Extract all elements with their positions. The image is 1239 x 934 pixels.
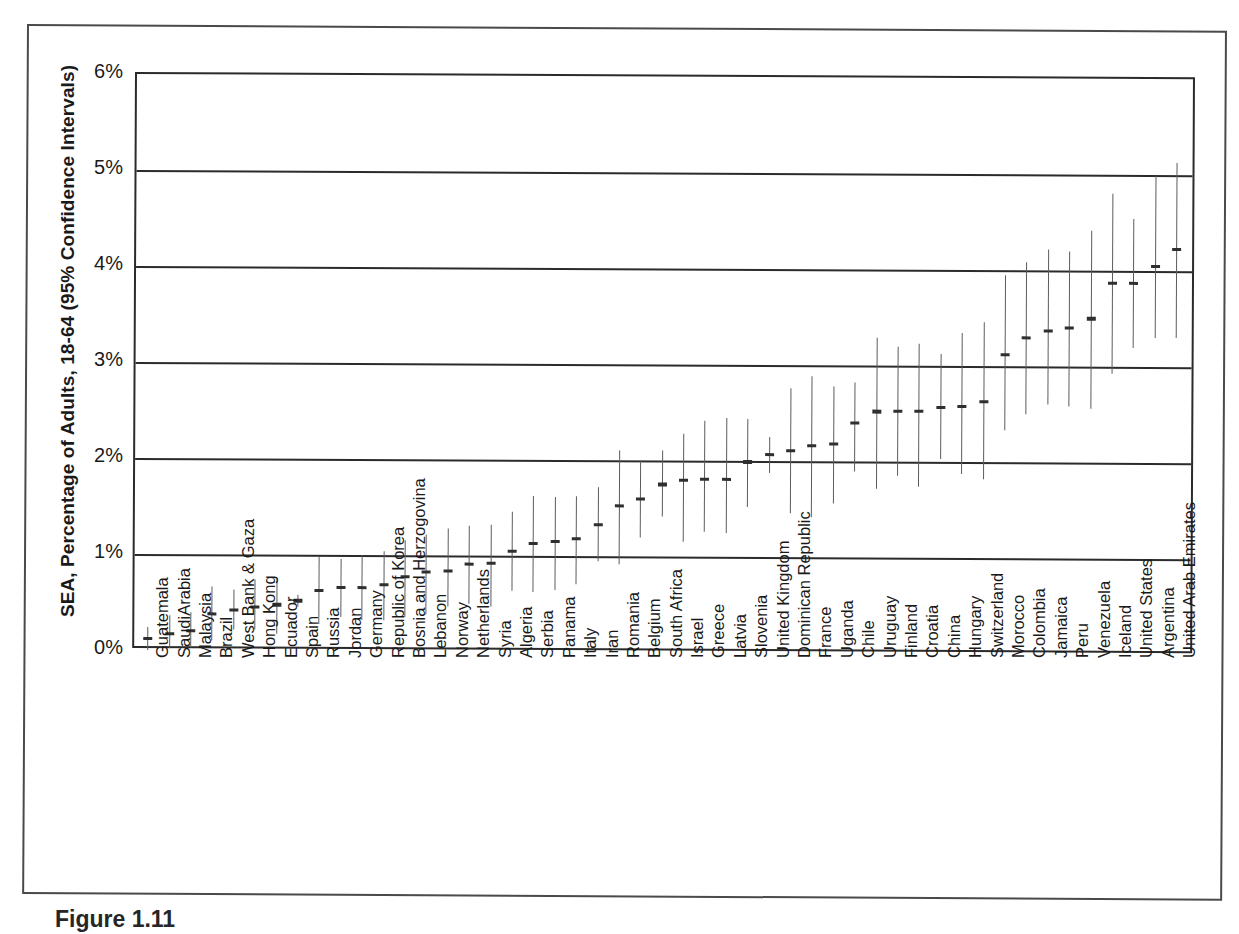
y-tick-6%: 6% [63,61,123,81]
data-point-marker [808,444,817,447]
x-tick-label: Iceland [1117,605,1134,658]
x-tick-label: Switzerland [989,573,1006,658]
error-bar [1047,249,1049,405]
data-point-marker [700,477,709,480]
data-point-marker [508,549,517,552]
data-point-marker [679,478,688,481]
y-tick-0%: 0% [63,637,123,657]
data-point-marker [529,542,538,545]
data-point-marker [486,562,495,565]
data-point-marker [1086,317,1095,320]
error-bar [918,344,920,487]
x-tick-label: Slovenia [753,595,770,658]
x-tick-label: Russia [325,608,342,658]
x-tick-label: South Africa [668,569,685,658]
data-point-marker [850,422,859,425]
data-point-marker [1172,248,1181,251]
y-tick-2%: 2% [63,445,123,465]
error-bar [683,434,685,542]
data-point-marker [1065,327,1074,330]
data-point-marker [786,449,795,452]
data-point-marker [893,409,902,412]
data-point-marker [743,460,752,463]
x-tick-label: Serbia [539,610,556,658]
x-tick-label: Spain [304,616,321,658]
data-point-marker [979,400,988,403]
x-tick-label: Colombia [1031,588,1048,658]
data-point-marker [722,477,731,480]
x-tick-label: Israel [689,618,706,658]
x-tick-label: Syria [497,620,514,658]
x-tick-label: Guatemala [154,577,171,658]
x-tick-label: France [817,607,834,658]
x-tick-label: Peru [1074,623,1091,658]
error-bar [726,418,728,533]
x-tick-label: Morocco [1010,595,1027,658]
y-tick-4%: 4% [63,253,123,273]
x-tick-label: Belgium [646,598,663,658]
x-tick-label: Uganda [839,600,856,658]
data-point-marker [1001,353,1010,356]
x-tick-label: Germany [368,590,385,658]
x-tick-label: Panama [561,597,578,658]
x-tick-label: China [946,615,963,658]
x-tick-label: Venezuela [1096,581,1113,658]
plot-area [132,72,1195,653]
data-point-marker [379,583,388,586]
x-tick-label: SaudiArabia [176,568,193,658]
data-point-marker [1108,282,1117,285]
x-tick-label: Bosnia and Herzogovina [411,478,428,658]
x-axis-tick-labels: GuatemalaSaudiArabiaMalaysiaBrazilWest B… [135,652,1195,902]
error-bar [704,420,706,531]
data-point-marker [465,563,474,566]
y-tick-3%: 3% [63,349,123,369]
data-point-marker [658,483,667,486]
x-tick-label: West Bank & Gaza [240,519,257,658]
data-point-marker [936,406,945,409]
x-tick-label: Lebanon [432,594,449,658]
x-tick-label: Croatia [924,605,941,658]
x-tick-label: Uruguay [882,596,899,658]
data-point-marker [958,405,967,408]
data-point-marker [315,589,324,592]
error-bar [618,451,620,564]
data-point-marker [1129,282,1138,285]
x-tick-label: Latvia [732,614,749,658]
error-bar [854,383,855,471]
x-tick-label: Malaysia [197,593,214,658]
data-point-marker [443,569,452,572]
x-tick-label: Chile [860,620,877,658]
data-point-marker [615,504,624,507]
y-axis-title: SEA, Percentage of Adults, 18-64 (95% Co… [57,21,79,661]
x-tick-label: Republic of Korea [390,527,407,658]
x-tick-label: Romania [625,592,642,658]
x-tick-label: Netherlands [475,569,492,658]
data-point-marker [765,453,774,456]
x-tick-label: Jamaica [1053,597,1070,658]
data-point-marker [915,409,924,412]
x-tick-label: United Arab Emirates [1181,502,1198,658]
x-tick-label: Finland [903,604,920,658]
y-tick-1%: 1% [63,541,123,561]
data-point-marker [829,443,838,446]
x-tick-label: Greece [710,604,727,658]
x-tick-label: Ecuador [283,597,300,658]
error-bar [554,497,555,589]
x-tick-label: Dominican Republic [796,511,813,658]
data-layer [134,74,1193,651]
data-point-marker [593,523,602,526]
x-tick-label: Hungary [967,596,984,658]
data-point-marker [229,609,238,612]
x-tick-label: United States [1138,559,1155,658]
data-point-marker [636,497,645,500]
data-point-marker [1151,265,1160,268]
x-tick-label: Iran [604,630,621,658]
x-tick-label: United Kingdom [775,541,792,658]
x-tick-label: Norway [454,602,471,658]
x-tick-label: Brazil [218,617,235,658]
y-tick-5%: 5% [63,157,123,177]
x-tick-label: Argentina [1160,587,1177,658]
data-point-marker [550,540,559,543]
figure-container: SEA, Percentage of Adults, 18-64 (95% Co… [0,0,1239,934]
x-tick-label: Hong Kong [261,575,278,658]
